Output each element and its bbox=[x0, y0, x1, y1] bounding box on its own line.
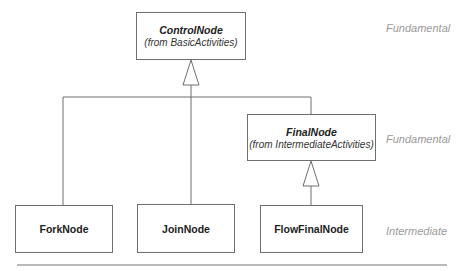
class-name: ControlNode bbox=[159, 24, 223, 36]
generalization-arrowhead-final bbox=[303, 161, 319, 186]
class-origin: (from BasicActivities) bbox=[144, 37, 237, 48]
class-fork-node[interactable]: ForkNode bbox=[15, 205, 113, 253]
package-label-final: Fundamental bbox=[386, 133, 450, 145]
class-flow-final-node[interactable]: FlowFinalNode bbox=[260, 205, 363, 253]
class-final-node[interactable]: FinalNode (from IntermediateActivities) bbox=[247, 114, 376, 161]
package-label-control: Fundamental bbox=[386, 22, 450, 34]
class-name: FlowFinalNode bbox=[274, 223, 349, 235]
package-label-bottom-row: Intermediate bbox=[386, 225, 447, 237]
generalization-arrowhead-control bbox=[183, 60, 199, 85]
class-control-node[interactable]: ControlNode (from BasicActivities) bbox=[136, 12, 246, 60]
class-origin: (from IntermediateActivities) bbox=[249, 139, 373, 150]
class-join-node[interactable]: JoinNode bbox=[137, 204, 235, 253]
class-name: JoinNode bbox=[162, 223, 210, 235]
class-name: FinalNode bbox=[286, 126, 337, 138]
class-name: ForkNode bbox=[39, 223, 88, 235]
